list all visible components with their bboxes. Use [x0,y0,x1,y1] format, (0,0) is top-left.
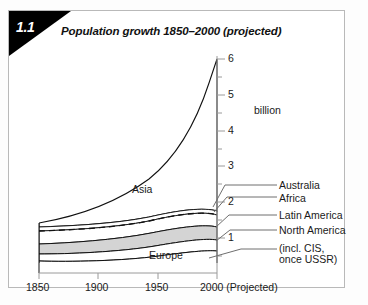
leader-line-north-america [216,230,277,241]
figure-frame: 1.1 Population growth 1850–2000 (project… [8,10,345,288]
x-tick-label-2000: 2000 (Projected) [200,281,278,293]
y-tick-label-4: 4 [228,124,234,136]
x-tick-label-1850: 1850 [26,281,49,293]
leader-line-australia [213,185,277,207]
y-tick-label-3: 3 [228,159,234,171]
y-tick-label-1: 1 [228,231,234,243]
series-label-latin-america: Latin America [279,209,343,221]
area-asia [39,59,217,227]
unit-label-billion: billion [254,104,281,116]
cis-note-line2: once USSR) [279,254,337,265]
x-tick-label-1900: 1900 [85,281,108,293]
x-tick-label-1950: 1950 [145,281,168,293]
y-tick-label-2: 2 [228,195,234,207]
figure-container: 1.1 Population growth 1850–2000 (project… [0,0,368,305]
y-tick-label-6: 6 [228,52,234,64]
y-tick-label-5: 5 [228,88,234,100]
series-label-africa: Africa [279,192,306,204]
europe-label: Europe [149,249,183,261]
leader-line-cis-note [209,249,277,258]
series-label-north-america: North America [279,224,346,236]
leader-line-africa [214,197,277,212]
series-label-australia: Australia [279,179,320,191]
leader-line-latin-america [216,215,277,227]
asia-label: Asia [132,183,152,195]
cis-note: (incl. CIS, once USSR) [279,243,337,265]
